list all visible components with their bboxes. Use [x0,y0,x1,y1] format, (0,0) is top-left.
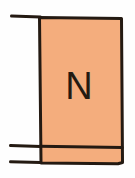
bottom-lead-lower [11,162,41,163]
top-lead [12,16,41,17]
hand-drawn-block-figure: N [0,0,135,178]
bottom-band-divider [40,146,122,147]
bottom-lead-upper [11,146,41,147]
block-label: N [65,65,92,107]
figure-canvas: N [0,0,135,178]
